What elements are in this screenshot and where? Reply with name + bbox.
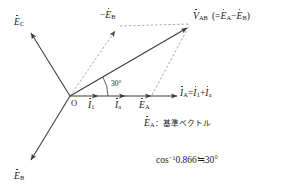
label-origin: O (71, 100, 77, 108)
note-text: 基準ベクトル (163, 119, 211, 128)
label-ia-sum-ia-base: I (205, 88, 208, 98)
construction-line-top (120, 24, 189, 26)
note-reference-vector: EA：基準ベクトル (144, 119, 211, 129)
formula-approx: ≒ (197, 155, 205, 165)
label-vab-base: V (193, 11, 199, 21)
label-minus-eb: −EB (100, 11, 116, 21)
vector-eb (31, 96, 70, 160)
label-i1: I1 (88, 101, 95, 111)
formula-cos: cos (156, 155, 169, 165)
phasor-diagram-figure: EC EB −EB VAB(=EA−EB) O I1 Ia EA IA=I1+I… (0, 0, 288, 193)
label-ia-sum: IA=I1+Ia (180, 89, 211, 99)
formula-value: 0.866 (175, 155, 196, 165)
label-eb-base: E (14, 171, 20, 181)
label-vab-expr-close: ) (247, 11, 250, 21)
label-vab-expr-eb-base: E (236, 11, 242, 21)
formula-angle: 30° (205, 155, 218, 165)
label-eb: EB (14, 172, 24, 182)
label-vab-expr-ea-base: E (220, 11, 226, 21)
label-angle-30: 30° (111, 80, 121, 87)
phasor-diagram-canvas (0, 0, 288, 193)
angle-arc-30 (103, 77, 108, 96)
label-ia-sum-ia-sub: a (208, 91, 211, 98)
label-ec-sub: C (20, 20, 24, 27)
label-ea: EA (139, 101, 150, 111)
label-ec: EC (14, 18, 24, 28)
label-ia: Ia (115, 101, 121, 111)
label-minus-eb-base: E (105, 10, 111, 20)
vector-ec (31, 33, 70, 96)
label-ia-base: I (115, 100, 118, 110)
label-ea-sub: A (145, 103, 150, 110)
note-colon: ： (155, 119, 163, 128)
label-i1-sub: 1 (91, 103, 94, 110)
vector-minus-eb (70, 31, 115, 96)
label-ia-sum-base: I (180, 88, 183, 98)
label-ea-base: E (139, 100, 145, 110)
label-ia-sub: a (118, 103, 121, 110)
note-ea-base: E (144, 118, 150, 128)
label-eb-sub: B (20, 174, 24, 181)
formula-arccos: cos−10.866≒30° (156, 155, 218, 166)
label-minus-eb-sub: B (111, 13, 115, 20)
label-i1-base: I (88, 100, 91, 110)
label-vab-sub: AB (199, 14, 208, 21)
label-ia-sum-i1-base: I (193, 88, 196, 98)
label-ec-base: E (14, 17, 20, 27)
construction-line-side (152, 26, 189, 95)
label-vab: VAB(=EA−EB) (193, 12, 250, 22)
